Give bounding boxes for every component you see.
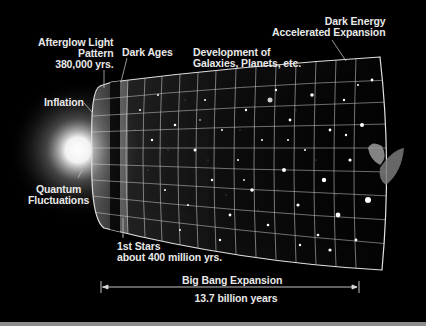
label-development: Development of Galaxies, Planets, etc. [193,47,301,69]
label-dark-energy: Dark Energy Accelerated Expansion [272,16,385,38]
label-duration: 13.7 billion years [186,293,286,304]
expanding-funnel [92,57,387,270]
label-quantum-fluctuations: Quantum Fluctuations [28,184,89,206]
bottom-strip [0,322,426,326]
label-big-bang-expansion: Big Bang Expansion [182,275,282,286]
label-dark-ages: Dark Ages [122,47,173,58]
label-afterglow: Afterglow Light Pattern 380,000 yrs. [38,37,114,70]
label-inflation: Inflation [44,97,84,108]
label-first-stars: 1st Stars about 400 million yrs. [117,241,222,263]
universe-timeline-diagram: Afterglow Light Pattern 380,000 yrs. Dar… [0,0,426,326]
